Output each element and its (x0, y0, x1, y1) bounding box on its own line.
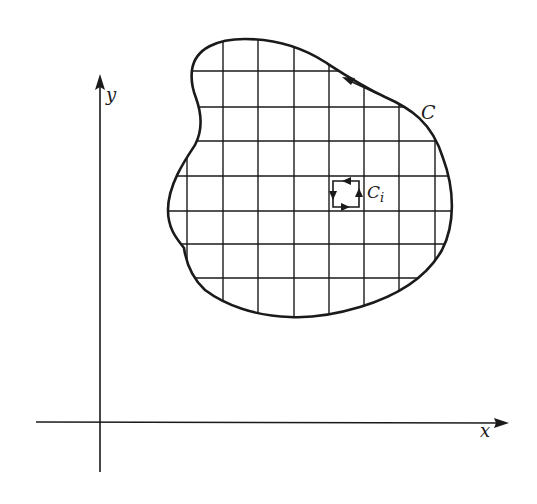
cell-circuit-ci (329, 177, 363, 211)
arrow-left-icon (342, 177, 351, 185)
cell-curve-label: Ci (367, 184, 384, 201)
cell-curve-label-main: C (367, 182, 380, 202)
cell-curve-label-subscript: i (380, 190, 384, 205)
axes (36, 74, 509, 472)
x-axis-arrowhead-icon (494, 418, 509, 428)
x-axis-label: x (480, 422, 490, 440)
y-axis-label: y (106, 86, 116, 104)
arrow-down-icon (329, 191, 337, 200)
grid (150, 30, 470, 330)
curve-c-label: C (421, 103, 436, 122)
arrow-right-icon (341, 203, 350, 211)
orientation-arrow-icon (342, 77, 378, 94)
boundary-curve-c (168, 39, 452, 317)
diagram-canvas (0, 0, 537, 504)
x-axis (36, 422, 500, 423)
arrow-up-icon (355, 188, 363, 197)
